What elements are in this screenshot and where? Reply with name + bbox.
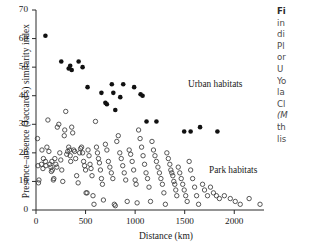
data-point-park xyxy=(145,176,149,180)
annotation-park-habitats: Park habitats xyxy=(209,165,257,175)
data-point-park xyxy=(83,168,87,172)
data-point-park xyxy=(238,202,242,206)
data-point-park xyxy=(175,194,179,198)
data-point-park xyxy=(82,164,86,168)
data-point-park xyxy=(172,179,176,183)
data-point-park xyxy=(116,134,120,138)
data-point-park xyxy=(99,176,103,180)
data-point-park xyxy=(181,182,185,186)
data-point-park xyxy=(109,171,113,175)
data-point-park xyxy=(103,142,107,146)
data-point-park xyxy=(134,182,138,186)
y-tick-label: 10 xyxy=(6,175,28,185)
plot-area: 0102030405060700500100015002000 xyxy=(36,10,264,210)
data-point-park xyxy=(118,151,122,155)
data-point-urban xyxy=(85,85,90,90)
data-point-park xyxy=(142,162,146,166)
data-point-urban xyxy=(154,119,159,124)
data-point-park xyxy=(101,198,105,202)
data-point-park xyxy=(147,185,151,189)
data-point-park xyxy=(157,171,161,175)
data-point-park xyxy=(105,148,109,152)
data-point-park xyxy=(37,178,41,182)
caption-line: (M xyxy=(277,110,316,122)
data-point-park xyxy=(79,145,83,149)
data-point-urban xyxy=(182,129,187,134)
y-tick-label: 70 xyxy=(6,4,28,14)
caption-line: Pl xyxy=(277,41,316,53)
y-tick-label: 60 xyxy=(6,33,28,43)
data-point-park xyxy=(154,159,158,163)
data-point-park xyxy=(81,159,85,163)
data-point-park xyxy=(125,199,129,203)
caption-line: Yo xyxy=(277,76,316,88)
data-point-park xyxy=(150,139,154,143)
data-point-park xyxy=(111,176,115,180)
data-point-park xyxy=(91,194,95,198)
data-point-park xyxy=(135,201,139,205)
data-point-park xyxy=(74,174,78,178)
data-point-park xyxy=(106,159,110,163)
data-point-park xyxy=(174,188,178,192)
data-point-park xyxy=(58,151,62,155)
x-tick-label: 500 xyxy=(66,216,106,226)
data-point-park xyxy=(196,202,200,206)
data-point-park xyxy=(163,202,167,206)
data-point-park xyxy=(127,148,131,152)
data-point-park xyxy=(153,154,157,158)
data-point-park xyxy=(93,119,97,123)
data-point-park xyxy=(96,156,100,160)
data-point-park xyxy=(46,118,50,122)
data-point-park xyxy=(113,204,117,208)
caption-line: in xyxy=(277,18,316,30)
data-point-park xyxy=(76,181,80,185)
data-point-park xyxy=(130,159,134,163)
data-point-park xyxy=(202,188,206,192)
caption-line: U xyxy=(277,64,316,76)
data-point-park xyxy=(144,171,148,175)
data-point-park xyxy=(138,136,142,140)
data-point-urban xyxy=(188,129,193,134)
data-point-park xyxy=(217,196,221,200)
data-point-park xyxy=(119,156,123,160)
scatter-svg xyxy=(36,10,264,210)
data-point-park xyxy=(70,131,74,135)
data-point-park xyxy=(80,151,84,155)
data-point-park xyxy=(97,161,101,165)
data-point-park xyxy=(69,159,73,163)
data-point-park xyxy=(222,194,226,198)
data-point-park xyxy=(162,191,166,195)
data-point-park xyxy=(187,159,191,163)
data-point-park xyxy=(182,188,186,192)
data-point-urban xyxy=(69,68,74,73)
data-point-park xyxy=(165,151,169,155)
data-point-park xyxy=(136,128,140,132)
data-point-park xyxy=(190,176,194,180)
data-point-park xyxy=(60,168,64,172)
data-point-park xyxy=(233,199,237,203)
data-point-park xyxy=(121,164,125,168)
data-point-park xyxy=(168,162,172,166)
data-point-park xyxy=(67,145,71,149)
x-tick-label: 1000 xyxy=(115,216,155,226)
data-point-urban xyxy=(43,33,48,38)
data-point-park xyxy=(173,182,177,186)
data-point-park xyxy=(139,145,143,149)
data-point-park xyxy=(108,165,112,169)
data-point-park xyxy=(200,182,204,186)
data-point-urban xyxy=(215,129,220,134)
data-point-urban xyxy=(59,59,64,64)
caption-line: Cl xyxy=(277,99,316,111)
data-point-park xyxy=(59,158,63,162)
data-point-park xyxy=(179,176,183,180)
data-point-park xyxy=(92,202,96,206)
data-point-park xyxy=(62,134,66,138)
data-point-urban xyxy=(132,85,137,90)
data-point-park xyxy=(122,171,126,175)
data-point-urban xyxy=(80,65,85,70)
data-point-park xyxy=(170,171,174,175)
caption-line: th xyxy=(277,122,316,134)
data-point-urban xyxy=(113,108,118,113)
data-point-urban xyxy=(140,93,145,98)
data-point-park xyxy=(169,168,173,172)
